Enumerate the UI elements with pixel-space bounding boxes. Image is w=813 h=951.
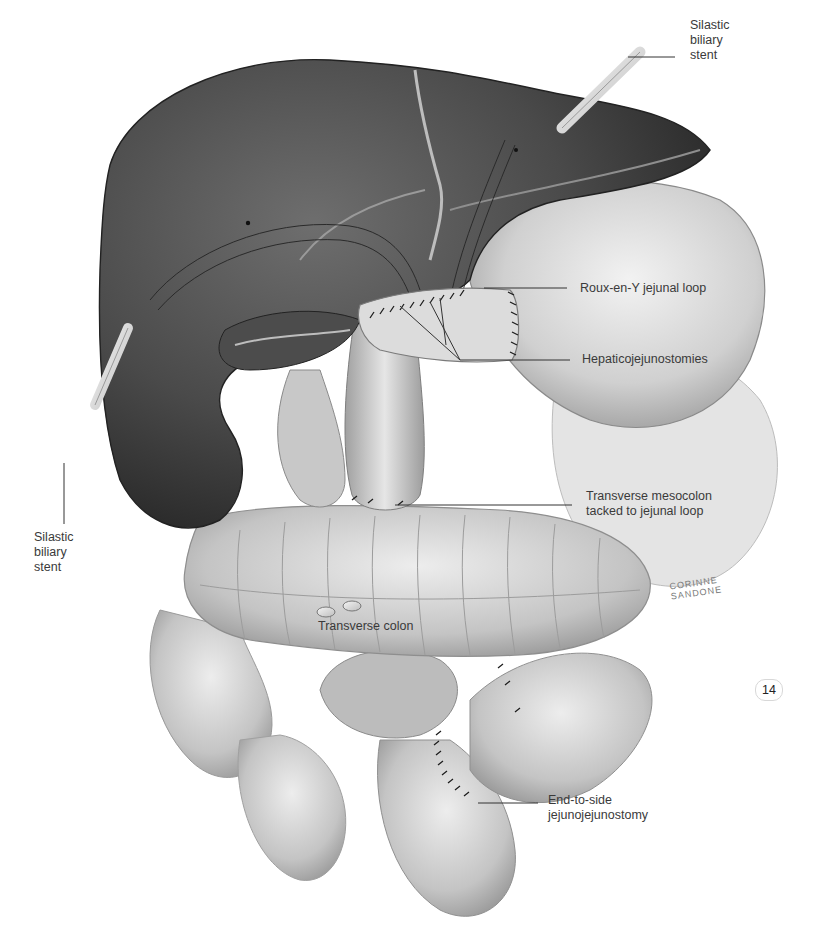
page-number-badge: 14 [755, 679, 783, 701]
label-transverse-mesocolon: Transverse mesocolon tacked to jejunal l… [586, 489, 712, 519]
label-hepaticojejunostomies: Hepaticojejunostomies [582, 352, 708, 367]
stent-tube-end [343, 601, 361, 611]
duodenum [278, 370, 345, 507]
label-silastic-stent-top: Silastic biliary stent [690, 18, 730, 63]
label-jejunojejunostomy: End-to-side jejunojejunostomy [548, 793, 648, 823]
roux-en-y-loop [358, 288, 518, 362]
label-silastic-stent-left: Silastic biliary stent [34, 530, 74, 575]
jejunal-limb-right [470, 653, 652, 802]
stent-tube-end [317, 607, 335, 617]
label-roux-en-y-loop: Roux-en-Y jejunal loop [580, 281, 706, 296]
label-transverse-colon: Transverse colon [318, 619, 413, 634]
surgical-illustration: Silastic biliary stent Silastic biliary … [0, 0, 813, 951]
anatomy-drawing [0, 0, 813, 951]
bowel-loop-center [320, 650, 457, 738]
small-bowel-bottom-left [238, 735, 346, 880]
